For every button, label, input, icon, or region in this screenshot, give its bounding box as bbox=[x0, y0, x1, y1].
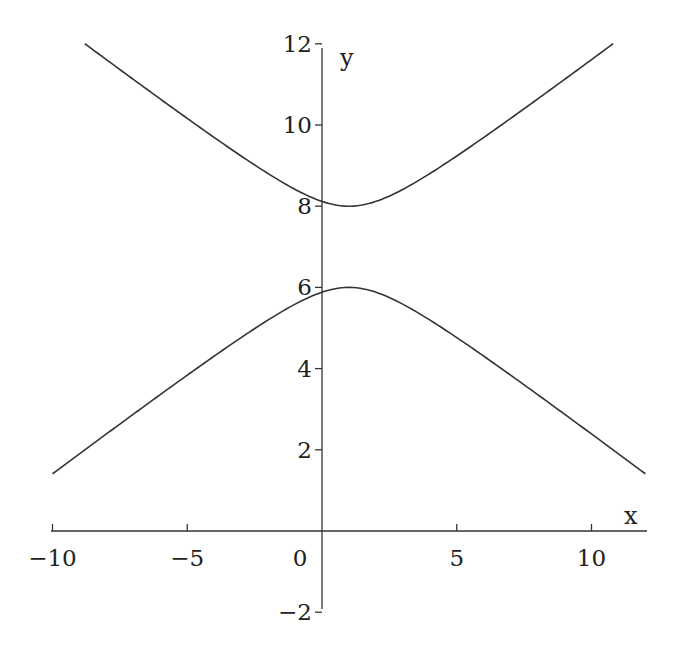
x-tick-label: 5 bbox=[449, 545, 464, 571]
x-tick-label: 10 bbox=[577, 545, 606, 571]
curves bbox=[53, 44, 646, 474]
hyperbola-plot: −10−50510 x −224681012 y bbox=[0, 0, 686, 656]
y-axis-ticks: −224681012 bbox=[278, 31, 322, 625]
y-tick-label: 10 bbox=[283, 112, 312, 138]
x-axis-label: x bbox=[624, 502, 638, 530]
x-tick-label: −5 bbox=[170, 545, 204, 571]
y-tick-label: 12 bbox=[283, 31, 312, 57]
y-tick-label: −2 bbox=[278, 599, 312, 625]
y-axis: −224681012 y bbox=[278, 31, 354, 625]
y-axis-label: y bbox=[339, 44, 354, 72]
y-tick-label: 2 bbox=[297, 437, 312, 463]
x-axis: −10−50510 x bbox=[28, 502, 647, 571]
y-tick-label: 4 bbox=[297, 356, 312, 382]
x-tick-label: −10 bbox=[28, 545, 77, 571]
lower-branch-curve bbox=[53, 287, 646, 473]
x-tick-label: 0 bbox=[293, 545, 308, 571]
